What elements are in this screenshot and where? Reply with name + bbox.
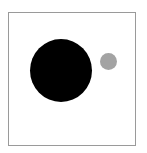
diagram-frame [8, 12, 136, 146]
large-black-circle [30, 39, 92, 102]
small-gray-circle [100, 53, 117, 70]
